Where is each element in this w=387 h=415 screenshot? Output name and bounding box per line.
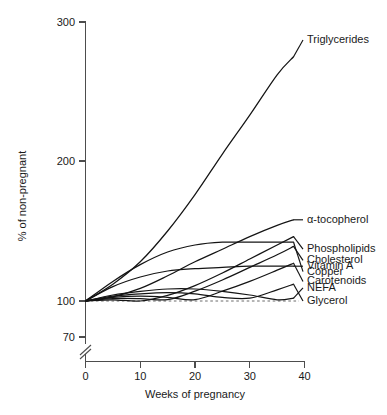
chart-canvas: 300 200 100 70 0 10 20 30 40 Weeks of pr… [0,0,387,415]
y-tick-label-100: 100 [57,295,75,307]
series-label-alpha-tocopherol: α-tocopherol [307,213,368,225]
plot-layer [86,40,304,301]
series-label-vitamin-a: Vitamin A [307,259,354,271]
x-tick-label-20: 20 [189,370,201,382]
chart-figure: 300 200 100 70 0 10 20 30 40 Weeks of pr… [0,0,387,415]
series-label-glycerol: Glycerol [307,294,347,306]
leader-nefa [294,288,303,298]
y-tick-label-300: 300 [57,16,75,28]
series-label-layer: Triglyceridesα-tocopherolPhospholipidsCh… [307,33,376,306]
y-axis-title: % of non-pregnant [16,151,28,242]
series-label-triglycerides: Triglycerides [307,33,369,45]
series-label-nefa: NEFA [307,281,336,293]
y-tick-label-70: 70 [63,331,75,343]
y-tick-label-200: 200 [57,155,75,167]
x-tick-label-40: 40 [298,370,310,382]
x-axis-title: Weeks of pregnancy [145,388,246,400]
x-tick-label-0: 0 [82,370,88,382]
x-tick-label-30: 30 [244,370,256,382]
x-tick-label-10: 10 [134,370,146,382]
series-label-phospholipids: Phospholipids [307,242,376,254]
leader-triglycerides [294,40,303,57]
curve-copper [86,242,294,301]
